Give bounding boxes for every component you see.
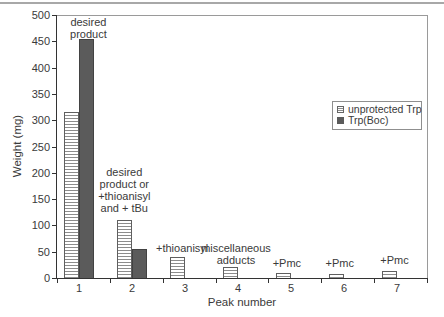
x-tick-label: 2 [117, 283, 147, 294]
bar-unprotected-trp-peak-5 [276, 273, 291, 278]
annotation-peak-1: desired product [70, 16, 107, 40]
bar-unprotected-trp-peak-3 [170, 257, 185, 278]
y-tick-label: 450 [16, 36, 50, 47]
y-tick [52, 199, 56, 200]
x-tick-label: 3 [170, 283, 200, 294]
bar-unprotected-trp-peak-7 [382, 271, 397, 278]
y-tick [52, 173, 56, 174]
y-tick-label: 300 [16, 115, 50, 126]
annotation-peak-6: +Pmc [325, 257, 353, 269]
x-tick-label: 1 [64, 283, 94, 294]
bar-chart-canvas: Weight (mg) 0501001502002503003504004505… [0, 0, 444, 317]
top-rule [0, 2, 444, 4]
x-tick [110, 279, 111, 283]
annotation-peak-5: +Pmc [273, 257, 301, 269]
x-axis-title: Peak number [57, 296, 427, 308]
y-tick-label: 0 [16, 273, 50, 284]
y-tick [52, 15, 56, 16]
y-tick [52, 252, 56, 253]
y-tick [52, 225, 56, 226]
y-tick [52, 68, 56, 69]
legend-item-trp-boc: Trp(Boc) [337, 115, 419, 126]
legend-swatch-solid-icon [337, 117, 344, 124]
x-tick [427, 279, 428, 283]
y-tick-label: 500 [16, 10, 50, 21]
y-tick-label: 100 [16, 220, 50, 231]
y-tick-label: 200 [16, 168, 50, 179]
y-tick [52, 120, 56, 121]
x-tick-label: 6 [329, 283, 359, 294]
x-tick [216, 279, 217, 283]
x-tick-label: 7 [382, 283, 412, 294]
legend-label-trp-boc: Trp(Boc) [348, 115, 388, 126]
y-tick-label: 250 [16, 142, 50, 153]
bar-unprotected-trp-peak-4 [223, 267, 238, 278]
x-tick [163, 279, 164, 283]
plot-frame-top [56, 15, 428, 16]
x-tick-label: 5 [276, 283, 306, 294]
bar-trp-boc-peak-2 [132, 249, 147, 278]
x-tick [321, 279, 322, 283]
annotation-peak-7: +Pmc [380, 254, 408, 266]
legend-swatch-hatched-icon [337, 106, 344, 113]
y-tick-label: 350 [16, 89, 50, 100]
y-tick [52, 41, 56, 42]
bar-unprotected-trp-peak-6 [329, 274, 344, 278]
bar-trp-boc-peak-1 [79, 39, 94, 278]
y-tick-label: 150 [16, 194, 50, 205]
x-tick-label: 4 [223, 283, 253, 294]
plot-frame-right [427, 15, 428, 279]
bar-unprotected-trp-peak-2 [117, 220, 132, 278]
y-tick-label: 50 [16, 247, 50, 258]
y-tick [52, 278, 56, 279]
x-tick [374, 279, 375, 283]
annotation-peak-2: desired product or +thioanisyl and + tBu [98, 166, 150, 214]
y-tick [52, 94, 56, 95]
y-tick-label: 400 [16, 63, 50, 74]
x-axis-line [56, 278, 428, 279]
y-tick [52, 147, 56, 148]
legend: unprotected Trp Trp(Boc) [332, 101, 422, 130]
y-axis-line [56, 15, 57, 279]
x-tick [57, 279, 58, 283]
bar-unprotected-trp-peak-1 [64, 112, 79, 278]
annotation-peak-4: miscellaneous adducts [201, 242, 271, 266]
x-tick [268, 279, 269, 283]
